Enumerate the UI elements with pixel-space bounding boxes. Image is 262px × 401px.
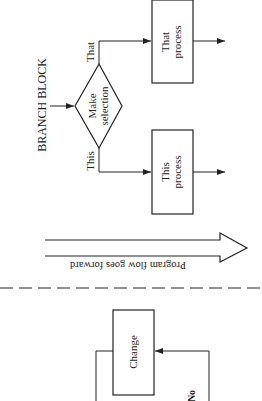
decision-label-line2: selection [98, 86, 110, 126]
this-branch-connector [99, 148, 151, 172]
diagram-title: BRANCH BLOCK [35, 58, 49, 152]
no-branch-label: No [186, 390, 197, 401]
program-flow-arrow: Program flow goes forward [45, 233, 247, 271]
that-branch-label: That [84, 42, 96, 62]
change-label: Change [127, 335, 139, 369]
loop-back-arrow [155, 351, 209, 401]
decision-diamond: Make selection [75, 64, 122, 148]
change-process-box: Change [113, 310, 154, 395]
that-branch-connector [99, 41, 151, 64]
that-process-line1: That [159, 32, 171, 52]
decision-label-line1: Make [86, 93, 98, 118]
change-left-connector [96, 351, 113, 401]
branch-block-diagram: BRANCH BLOCK Make selection That This Th… [0, 0, 262, 401]
that-process-box: That process [152, 0, 193, 83]
this-process-box: This process [152, 130, 193, 214]
this-process-line2: process [171, 156, 183, 189]
this-branch-label: This [84, 151, 96, 171]
that-process-line2: process [171, 26, 183, 59]
this-process-line1: This [159, 162, 171, 182]
program-flow-label: Program flow goes forward [69, 260, 186, 271]
